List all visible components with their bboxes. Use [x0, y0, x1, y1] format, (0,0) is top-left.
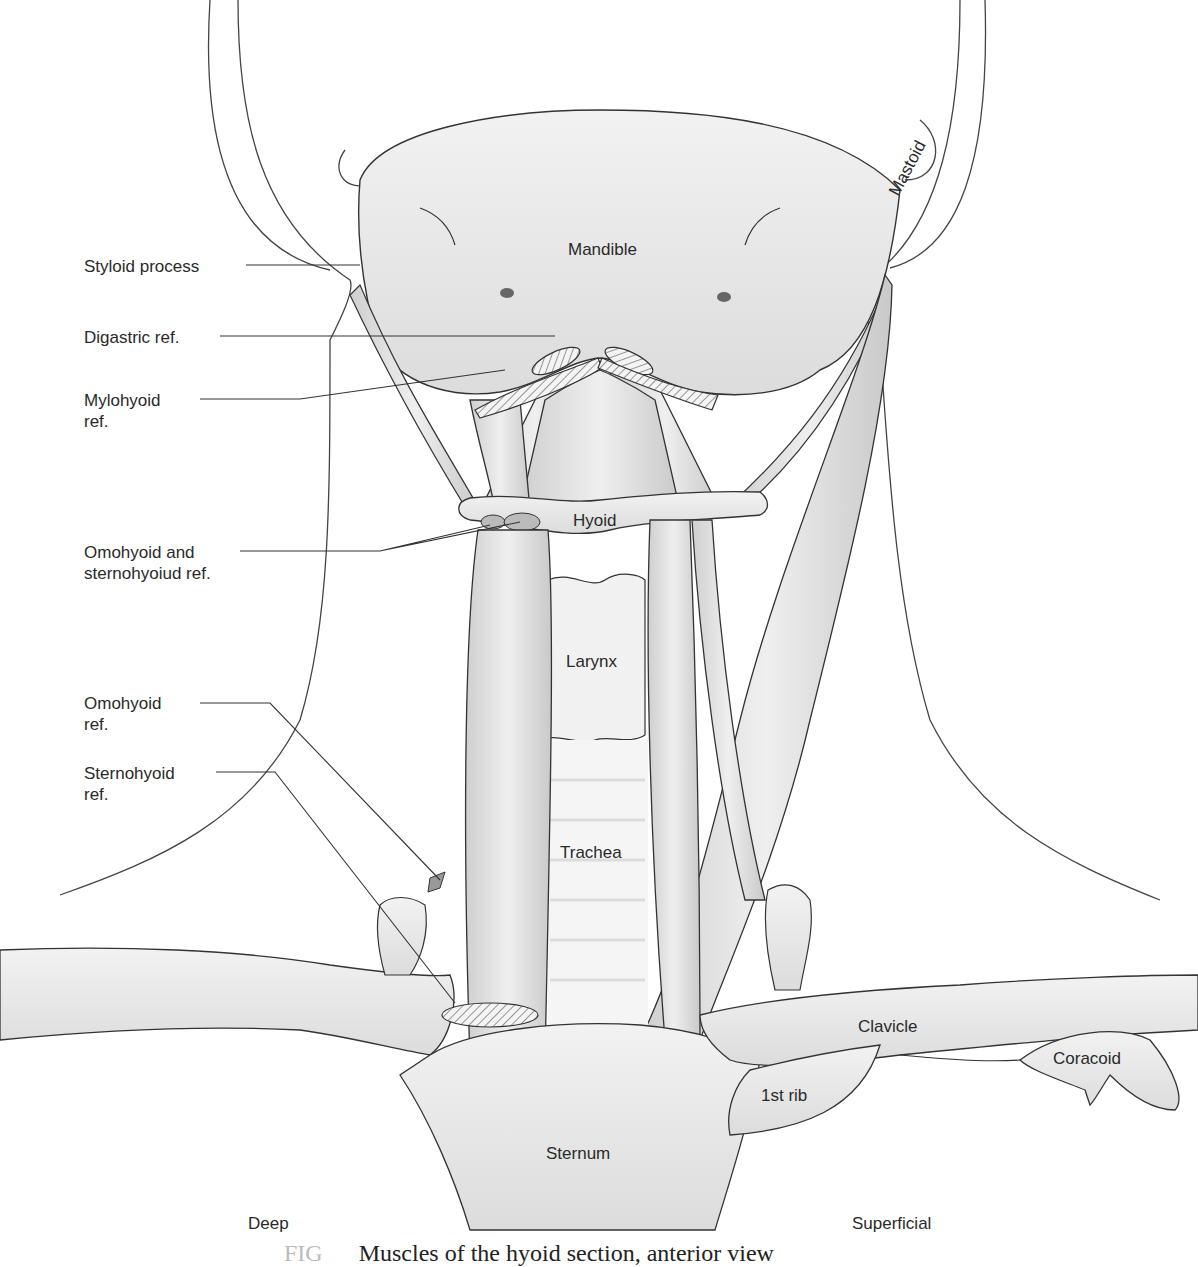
figure-caption: FIG Muscles of the hyoid section, anteri…: [284, 1240, 774, 1267]
label-mandible: Mandible: [568, 240, 637, 260]
callout-omohyoid-sternohyoid-ref: Omohyoid and sternohyoiud ref.: [84, 542, 211, 584]
label-hyoid: Hyoid: [573, 511, 616, 531]
callout-mylohyoid-ref: Mylohyoid ref.: [84, 390, 161, 432]
callout-sternohyoid-ref: Sternohyoid ref.: [84, 763, 175, 805]
label-trachea: Trachea: [560, 843, 622, 863]
label-first-rib: 1st rib: [761, 1086, 807, 1106]
label-sternum: Sternum: [546, 1144, 610, 1164]
label-larynx: Larynx: [566, 652, 617, 672]
label-clavicle: Clavicle: [858, 1017, 918, 1037]
side-label-deep: Deep: [248, 1214, 289, 1234]
callout-styloid-process: Styloid process: [84, 256, 199, 277]
label-coracoid: Coracoid: [1053, 1049, 1121, 1069]
caption-text: Muscles of the hyoid section, anterior v…: [359, 1240, 774, 1266]
coracoid: [1020, 1032, 1179, 1110]
caption-number: FIG: [284, 1240, 323, 1266]
trachea: [548, 740, 648, 1050]
side-label-superficial: Superficial: [852, 1214, 931, 1234]
callout-digastric-ref: Digastric ref.: [84, 327, 179, 348]
sternum: [400, 1024, 760, 1230]
callout-omohyoid-ref: Omohyoid ref.: [84, 693, 161, 735]
